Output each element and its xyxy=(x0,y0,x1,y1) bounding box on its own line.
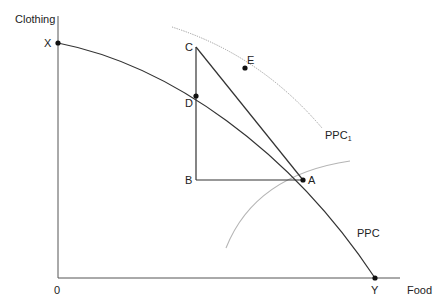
point-d-dot xyxy=(193,93,198,98)
point-b-label: B xyxy=(185,174,192,186)
point-e-label: E xyxy=(247,54,254,66)
point-a-label: A xyxy=(308,174,316,186)
point-y-dot xyxy=(372,275,377,280)
indifference-arc xyxy=(226,161,350,248)
ppc-diagram: Clothing Food 0 X Y A B C D E PPC PPC1 xyxy=(0,0,447,308)
point-y-label: Y xyxy=(371,284,379,296)
line-ca xyxy=(196,47,303,180)
ppc1-curve xyxy=(172,27,322,128)
ppc-label: PPC xyxy=(357,227,380,239)
point-x-dot xyxy=(55,40,60,45)
point-c-label: C xyxy=(185,41,193,53)
ppc1-label: PPC1 xyxy=(325,129,352,142)
point-x-label: X xyxy=(44,37,52,49)
point-a-dot xyxy=(300,177,305,182)
ppc1-label-main: PPC xyxy=(325,129,348,141)
x-axis-label: Food xyxy=(407,284,432,296)
ppc-curve xyxy=(58,43,375,278)
origin-label: 0 xyxy=(54,284,60,296)
ppc1-label-subscript: 1 xyxy=(348,135,352,142)
y-axis-label: Clothing xyxy=(15,13,55,25)
point-d-label: D xyxy=(185,97,193,109)
point-e-dot xyxy=(242,65,247,70)
